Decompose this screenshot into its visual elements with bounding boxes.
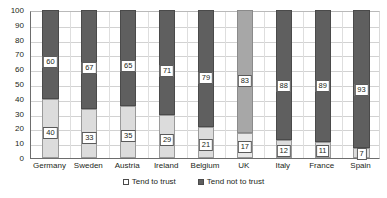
y-axis-tick: 10	[15, 140, 24, 148]
bar-segment-tend-not-to-trust[interactable]	[81, 10, 97, 109]
bar-column[interactable]: 937	[353, 12, 369, 158]
legend-item[interactable]: Tend not to trust	[198, 177, 264, 186]
bar-value-label-tend-not-to-trust: 60	[43, 56, 57, 68]
legend-item[interactable]: Tend to trust	[123, 177, 176, 186]
legend-swatch-dark-icon	[198, 179, 204, 185]
bar-column[interactable]: 6535	[120, 12, 136, 158]
bar-value-label-tend-not-to-trust: 65	[121, 60, 135, 72]
y-axis-tick: 40	[15, 96, 24, 104]
bar-value-label-tend-to-trust: 7	[356, 148, 366, 160]
x-axis: GermanySwedenAustriaIrelandBelgiumUKItal…	[30, 161, 380, 173]
bar-value-label-tend-not-to-trust: 79	[199, 72, 213, 84]
bar-column[interactable]: 6733	[81, 12, 97, 158]
bar-value-label-tend-to-trust: 33	[82, 132, 96, 144]
bar-value-label-tend-not-to-trust: 71	[160, 65, 174, 77]
bar-value-label-tend-not-to-trust: 89	[315, 80, 329, 92]
bar-column[interactable]: 7129	[159, 12, 175, 158]
bar-column[interactable]: 8812	[276, 12, 292, 158]
y-axis-tick: 60	[15, 66, 24, 74]
stacked-bar-chart: 0102030405060708090100 60406733653571297…	[0, 0, 387, 198]
x-axis-label: France	[309, 161, 334, 171]
bar-value-label-tend-not-to-trust: 88	[277, 80, 291, 92]
legend-item-label: Tend not to trust	[207, 177, 264, 186]
bar-segment-tend-not-to-trust[interactable]	[120, 10, 136, 106]
y-axis-tick: 50	[15, 81, 24, 89]
bar-value-label-tend-to-trust: 12	[277, 145, 291, 157]
bar-column[interactable]: 6040	[42, 12, 58, 158]
bar-segment-tend-not-to-trust[interactable]	[159, 10, 175, 115]
y-axis-tick: 20	[15, 125, 24, 133]
x-axis-label: Ireland	[154, 161, 178, 171]
bar-value-label-tend-not-to-trust: 83	[238, 75, 252, 87]
bar-value-label-tend-to-trust: 40	[43, 127, 57, 139]
x-axis-label: Belgium	[191, 161, 220, 171]
y-axis-tick: 100	[11, 7, 24, 15]
bar-column[interactable]: 8911	[315, 12, 331, 158]
bar-segment-tend-not-to-trust[interactable]	[353, 10, 369, 148]
bar-value-label-tend-not-to-trust: 67	[82, 62, 96, 74]
bar-group: 60406733653571297921831788128911937	[31, 12, 379, 158]
x-axis-label: Spain	[350, 161, 370, 171]
bar-value-label-tend-to-trust: 17	[238, 141, 252, 153]
plot-wrapper: 60406733653571297921831788128911937	[30, 11, 380, 159]
bar-value-label-tend-to-trust: 35	[121, 130, 135, 142]
bar-value-label-tend-to-trust: 11	[316, 145, 330, 157]
y-axis-tick: 80	[15, 37, 24, 45]
x-axis-label: UK	[238, 161, 249, 171]
y-axis: 0102030405060708090100	[0, 11, 28, 159]
x-axis-label: Sweden	[74, 161, 103, 171]
x-axis-label: Germany	[33, 161, 66, 171]
y-axis-tick: 70	[15, 51, 24, 59]
x-axis-label: Italy	[275, 161, 290, 171]
bar-value-label-tend-not-to-trust: 93	[354, 84, 368, 96]
plot-area: 60406733653571297921831788128911937	[30, 11, 380, 159]
x-axis-label: Austria	[115, 161, 140, 171]
bar-segment-tend-not-to-trust[interactable]	[42, 10, 58, 99]
bar-segment-tend-not-to-trust[interactable]	[198, 10, 214, 127]
bar-column[interactable]: 7921	[198, 12, 214, 158]
bar-segment-tend-not-to-trust[interactable]	[276, 10, 292, 140]
legend-item-label: Tend to trust	[132, 177, 176, 186]
bar-value-label-tend-to-trust: 29	[160, 134, 174, 146]
y-axis-tick: 90	[15, 22, 24, 30]
bar-segment-tend-not-to-trust[interactable]	[237, 10, 253, 133]
legend-swatch-light-icon	[123, 179, 129, 185]
chart-legend: Tend to trustTend not to trust	[0, 177, 387, 186]
bar-value-label-tend-to-trust: 21	[199, 139, 213, 151]
y-axis-tick: 30	[15, 111, 24, 119]
bar-segment-tend-not-to-trust[interactable]	[315, 10, 331, 142]
y-axis-tick: 0	[20, 155, 24, 163]
bar-column[interactable]: 8317	[237, 12, 253, 158]
